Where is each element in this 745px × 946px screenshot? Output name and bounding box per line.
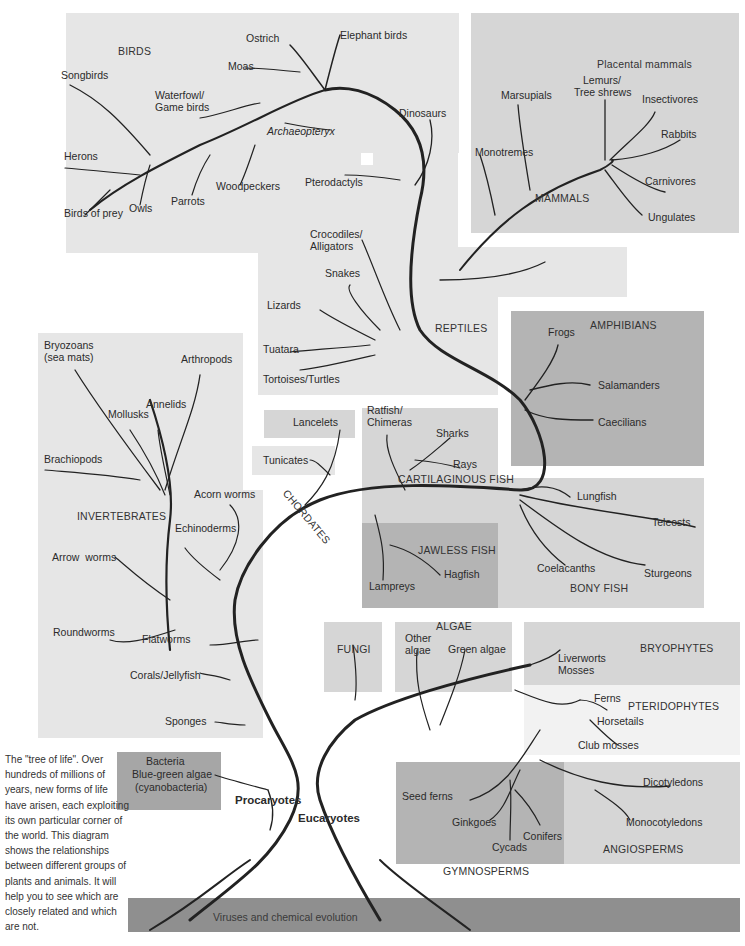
group-label-cartilaginous-fish: CARTILAGINOUS FISH	[398, 473, 514, 485]
label-blue-green-algae: Blue-green algae	[132, 768, 212, 780]
label-annelids: Annelids	[146, 398, 186, 410]
group-label-mammals: MAMMALS	[535, 192, 590, 204]
group-label-amphibians: AMPHIBIANS	[590, 319, 657, 331]
label-herons: Herons	[64, 150, 98, 162]
label-lungfish: Lungfish	[577, 490, 617, 502]
label-other-algae-1: Other	[405, 632, 431, 644]
label-ginkgoes: Ginkgoes	[452, 816, 496, 828]
label-horsetails: Horsetails	[597, 715, 644, 727]
label-archaeopteryx: Archaeopteryx	[267, 125, 335, 137]
label-teleosts: Teleosts	[652, 516, 691, 528]
label-tuatara: Tuatara	[263, 343, 299, 355]
group-label-eucaryotes: Eucaryotes	[298, 812, 360, 824]
label-ferns: Ferns	[594, 692, 621, 704]
label-dinosaurs: Dinosaurs	[399, 107, 446, 119]
label-lancelets: Lancelets	[293, 416, 338, 428]
label-parrots: Parrots	[171, 195, 205, 207]
label-chimeras: Chimeras	[367, 416, 412, 428]
group-label-angiosperms: ANGIOSPERMS	[603, 843, 683, 855]
label-woodpeckers: Woodpeckers	[216, 180, 280, 192]
label-birds-of-prey: Birds of prey	[64, 207, 123, 219]
label-cyanobacteria: (cyanobacteria)	[135, 781, 207, 793]
label-snakes: Snakes	[325, 267, 360, 279]
group-label-bony-fish: BONY FISH	[570, 582, 628, 594]
label-ostrich: Ostrich	[246, 32, 279, 44]
label-monotremes: Monotremes	[475, 146, 533, 158]
label-flatworms: Flatworms	[142, 633, 190, 645]
group-label-birds: BIRDS	[118, 45, 151, 57]
label-waterfowl: Waterfowl/	[155, 89, 204, 101]
label-dicotyledons: Dicotyledons	[643, 776, 703, 788]
label-arrow-worms: Arrow worms	[52, 551, 116, 563]
label-rays: Rays	[453, 458, 477, 470]
group-label-algae: ALGAE	[436, 620, 472, 632]
label-caecilians: Caecilians	[598, 416, 646, 428]
label-salamanders: Salamanders	[598, 379, 660, 391]
label-carnivores: Carnivores	[645, 175, 696, 187]
label-sturgeons: Sturgeons	[644, 567, 692, 579]
group-label-procaryotes: Procaryotes	[235, 794, 301, 806]
label-ungulates: Ungulates	[648, 211, 695, 223]
label-tortoises-turtles: Tortoises/Turtles	[263, 373, 340, 385]
label-game-birds: Game birds	[155, 101, 209, 113]
label-owls: Owls	[129, 202, 152, 214]
label-echinoderms: Echinoderms	[175, 522, 236, 534]
label-tunicates: Tunicates	[263, 454, 308, 466]
group-label-gymnosperms: GYMNOSPERMS	[443, 865, 529, 877]
label-club-mosses: Club mosses	[578, 739, 639, 751]
group-label-placental-mammals: Placental mammals	[597, 58, 692, 70]
label-bryozoans: Bryozoans	[44, 339, 94, 351]
label-mollusks: Mollusks	[108, 408, 149, 420]
group-label-pteridophytes: PTERIDOPHYTES	[628, 700, 719, 712]
label-sponges: Sponges	[165, 715, 206, 727]
label-cycads: Cycads	[492, 841, 527, 853]
label-elephant-birds: Elephant birds	[340, 29, 407, 41]
label-monocotyledons: Monocotyledons	[626, 816, 702, 828]
label-green-algae: Green algae	[448, 643, 506, 655]
label-acorn-worms: Acorn worms	[194, 488, 255, 500]
label-roundworms: Roundworms	[53, 626, 115, 638]
label-corals-jellyfish: Corals/Jellyfish	[130, 669, 201, 681]
label-tree-shrews: Tree shrews	[574, 86, 631, 98]
group-label-invertebrates: INVERTEBRATES	[77, 510, 166, 522]
label-sea-mats: (sea mats)	[44, 351, 94, 363]
label-ratfish: Ratfish/	[367, 404, 403, 416]
label-hagfish: Hagfish	[444, 568, 480, 580]
figure-caption: The "tree of life". Over hundreds of mil…	[5, 752, 130, 934]
label-conifers: Conifers	[523, 830, 562, 842]
label-coelacanths: Coelacanths	[537, 562, 595, 574]
label-other-algae-2: algae	[405, 644, 431, 656]
label-pterodactyls: Pterodactyls	[305, 176, 363, 188]
label-alligators: Alligators	[310, 240, 353, 252]
label-crocodiles: Crocodiles/	[310, 228, 363, 240]
label-insectivores: Insectivores	[642, 93, 698, 105]
label-frogs: Frogs	[548, 326, 575, 338]
label-mosses: Mosses	[558, 664, 594, 676]
label-moas: Moas	[228, 60, 254, 72]
label-songbirds: Songbirds	[61, 69, 108, 81]
label-bacteria: Bacteria	[146, 755, 185, 767]
label-brachiopods: Brachiopods	[44, 453, 102, 465]
label-sharks: Sharks	[436, 427, 469, 439]
label-arthropods: Arthropods	[181, 353, 232, 365]
group-label-jawless-fish: JAWLESS FISH	[418, 544, 496, 556]
label-rabbits: Rabbits	[661, 128, 697, 140]
group-label-base: Viruses and chemical evolution	[213, 911, 358, 923]
label-lemurs: Lemurs/	[583, 74, 621, 86]
label-liverworts: Liverworts	[558, 652, 606, 664]
label-marsupials: Marsupials	[501, 89, 552, 101]
label-seed-ferns: Seed ferns	[402, 790, 453, 802]
group-label-fungi: FUNGI	[337, 643, 371, 655]
label-lampreys: Lampreys	[369, 580, 415, 592]
group-label-bryophytes: BRYOPHYTES	[640, 642, 714, 654]
group-label-reptiles: REPTILES	[435, 322, 487, 334]
label-lizards: Lizards	[267, 299, 301, 311]
